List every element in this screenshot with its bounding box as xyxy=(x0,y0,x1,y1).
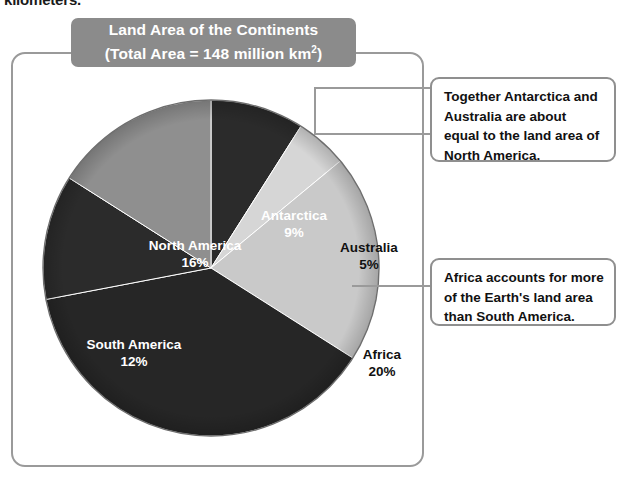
chart-title-total-prefix: (Total Area = 148 million km xyxy=(105,46,312,63)
pie-label-europe-and-asia-name: Europe and Asia xyxy=(150,468,296,485)
leader-line-antarctica-australia-lower xyxy=(314,133,432,135)
pie-chart-svg xyxy=(40,97,382,439)
chart-title-total-suffix: ) xyxy=(317,46,322,63)
leader-line-antarctica-australia-vertical xyxy=(314,87,316,135)
chart-title-plate: Land Area of the Continents (Total Area … xyxy=(71,18,356,67)
chart-title-line-2: (Total Area = 148 million km2) xyxy=(105,40,322,64)
page-cutoff-text: kilometers. xyxy=(4,0,81,8)
callout-africa: Africa accounts for more of the Earth's … xyxy=(430,258,616,326)
callout-antarctica-australia: Together Antarctica and Australia are ab… xyxy=(430,77,616,162)
leader-line-africa xyxy=(352,285,432,287)
pie-label-europe-and-asia: Europe and Asia 38% xyxy=(150,468,296,487)
pie-rim-shading xyxy=(43,100,379,436)
pie-chart: Antarctica 9% Australia 5% Africa 20% Eu… xyxy=(40,97,382,439)
leader-line-antarctica-australia-upper xyxy=(314,87,432,89)
chart-title-line-1: Land Area of the Continents xyxy=(109,20,319,40)
